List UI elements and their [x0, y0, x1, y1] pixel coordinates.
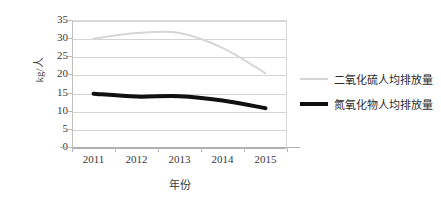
y-axis-tick-label: 20: [42, 68, 68, 79]
legend-item[interactable]: 氮氧化物人均排放量: [300, 97, 440, 111]
gridline: [73, 148, 286, 149]
x-axis-tick-mark: [287, 147, 288, 152]
y-axis-tick-mark: [68, 111, 72, 112]
y-axis-tick-label: 30: [42, 32, 68, 43]
x-axis-tick-mark: [244, 147, 245, 152]
legend-item-label: 二氧化硫人均排放量: [334, 71, 433, 87]
y-axis-tick-mark: [68, 129, 72, 130]
x-axis-tick-mark: [201, 147, 202, 152]
x-axis-title: 年份: [138, 176, 222, 192]
y-axis-tick-mark: [68, 74, 72, 75]
x-axis-tick-label: 2015: [244, 153, 288, 165]
y-axis-tick-labels: 05101520253035: [36, 20, 68, 147]
y-axis-tick-label: 35: [42, 14, 68, 25]
x-axis-tick-label: 2014: [201, 153, 245, 165]
x-axis-tick-label: 2012: [115, 153, 159, 165]
series-line: [94, 94, 266, 109]
y-axis-tick-label: 10: [42, 105, 68, 116]
y-axis-tick-mark: [68, 38, 72, 39]
x-axis-tick-label: 2013: [158, 153, 202, 165]
x-axis-tick-mark: [115, 147, 116, 152]
series-line: [94, 32, 266, 74]
x-axis-tick-label: 2011: [72, 153, 116, 165]
series-layer: [72, 20, 287, 147]
y-axis-tick-mark: [68, 20, 72, 21]
legend-swatch-icon: [300, 78, 328, 80]
y-axis-tick-label: 15: [42, 87, 68, 98]
chart-legend: 二氧化硫人均排放量氮氧化物人均排放量: [300, 72, 440, 122]
y-axis-tick-mark: [68, 93, 72, 94]
x-axis-tick-mark: [158, 147, 159, 152]
legend-item-label: 氮氧化物人均排放量: [334, 96, 433, 112]
legend-item[interactable]: 二氧化硫人均排放量: [300, 72, 440, 86]
x-axis-line: [60, 147, 300, 148]
x-axis-tick-mark: [72, 147, 73, 152]
y-axis-tick-mark: [68, 56, 72, 57]
line-chart: kg/人 05101520253035 20112012201320142015…: [0, 0, 441, 205]
y-axis-tick-label: 5: [42, 123, 68, 134]
legend-swatch-icon: [300, 102, 328, 106]
y-axis-tick-mark: [68, 147, 72, 148]
y-axis-tick-label: 25: [42, 50, 68, 61]
